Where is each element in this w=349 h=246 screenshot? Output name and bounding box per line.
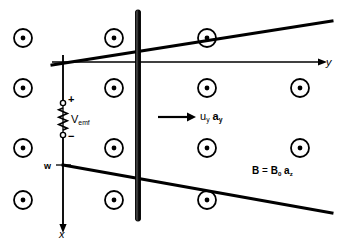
field-out-of-page-dot (21, 36, 26, 41)
velocity-arrowhead (187, 112, 196, 121)
az-subscript: z (290, 170, 293, 177)
vemf-subscript: emf (78, 119, 89, 126)
x-axis-label: x (59, 229, 65, 240)
az-base: a (284, 165, 290, 176)
emf-voltage-label: Vemf (71, 114, 90, 125)
emf-resistor-zigzag (59, 108, 67, 130)
plus-sign-label: + (68, 94, 74, 105)
emf-circuit-group (59, 55, 67, 224)
field-out-of-page-dot (21, 86, 26, 91)
minus-sign-label: − (68, 131, 74, 142)
sliding-conducting-bar[interactable] (136, 10, 141, 221)
width-label: w (44, 162, 51, 171)
field-out-of-page-dot (298, 86, 303, 91)
axis-group (52, 55, 327, 233)
velocity-vector-label: uy ay (200, 111, 223, 122)
field-out-of-page-dot (21, 146, 26, 151)
b0-subscript: 0 (278, 170, 281, 177)
b-vector-symbol: B (252, 165, 259, 176)
field-out-of-page-dot (205, 198, 210, 203)
b0-base: B (271, 165, 278, 176)
field-out-of-page-dot (205, 86, 210, 91)
velocity-u-subscript: y (206, 116, 209, 123)
y-axis-label: y (326, 57, 332, 68)
negative-terminal-node (60, 132, 65, 137)
figure-canvas: y x w + − Vemf uy ay B = B0 az (0, 0, 349, 246)
field-out-of-page-dot (112, 146, 117, 151)
velocity-a-base: a (213, 110, 219, 122)
field-out-of-page-dot (112, 86, 117, 91)
top-rail (52, 21, 332, 65)
b-equals-sign: = (262, 165, 268, 176)
field-out-of-page-dot (112, 198, 117, 203)
positive-terminal-node (60, 100, 65, 105)
field-out-of-page-dot (112, 36, 117, 41)
field-out-of-page-dot (21, 198, 26, 203)
field-out-of-page-dot (298, 146, 303, 151)
figure-drawing (0, 0, 349, 246)
field-out-of-page-dot (205, 146, 210, 151)
velocity-a-subscript: y (219, 116, 223, 123)
magnetic-field-annotation: B = B0 az (252, 166, 293, 176)
velocity-arrow-group (158, 112, 196, 121)
